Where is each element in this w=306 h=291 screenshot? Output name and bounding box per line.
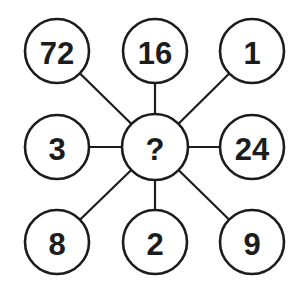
node-value: 9: [243, 227, 260, 262]
node-top-right: 1: [220, 19, 284, 83]
node-middle-right: 24: [220, 115, 284, 179]
node-value: 3: [48, 132, 65, 167]
node-value: 72: [40, 36, 74, 71]
node-value: 24: [235, 132, 270, 167]
node-value: 8: [48, 227, 65, 262]
node-center-unknown: ?: [122, 114, 188, 180]
node-bottom-right: 9: [220, 210, 284, 274]
node-bottom-left: 8: [25, 210, 89, 274]
node-top-middle: 16: [123, 19, 187, 83]
question-mark-icon: ?: [146, 132, 165, 167]
number-wheel-puzzle: 72 16 1 3 ? 24 8 2 9: [0, 0, 306, 291]
node-value: 16: [138, 36, 172, 71]
node-value: 2: [146, 227, 163, 262]
node-top-left: 72: [25, 19, 89, 83]
node-middle-left: 3: [25, 115, 89, 179]
node-bottom-middle: 2: [123, 210, 187, 274]
node-value: 1: [243, 36, 260, 71]
